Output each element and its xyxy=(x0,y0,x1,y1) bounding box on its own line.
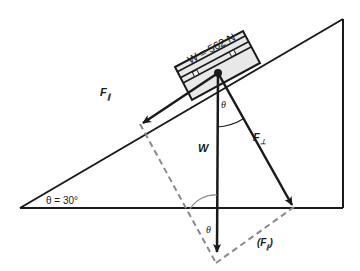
incline-angle-label: θ = 30° xyxy=(46,195,78,206)
theta-bottom-label: θ xyxy=(206,224,211,235)
incline-triangle xyxy=(20,19,343,208)
theta-top-label: θ xyxy=(221,99,226,110)
force-vectors xyxy=(143,69,292,252)
f-perp-label: F⊥ xyxy=(253,131,266,145)
theta-arc-bottom xyxy=(190,195,217,209)
f-parallel-paren-label: (F∥) xyxy=(257,237,273,251)
inclined-plane-diagram: W = 562 N F∥ F⊥ W θ θ θ = 30° (F∥) xyxy=(0,0,360,271)
dashed-right-line xyxy=(216,207,294,263)
theta-arc-top xyxy=(217,119,243,127)
weight-arrow xyxy=(217,73,218,252)
incline-slope xyxy=(20,19,343,208)
weight-label: W xyxy=(198,142,210,154)
f-parallel-label: F∥ xyxy=(100,86,112,101)
force-origin-dot xyxy=(214,69,222,77)
